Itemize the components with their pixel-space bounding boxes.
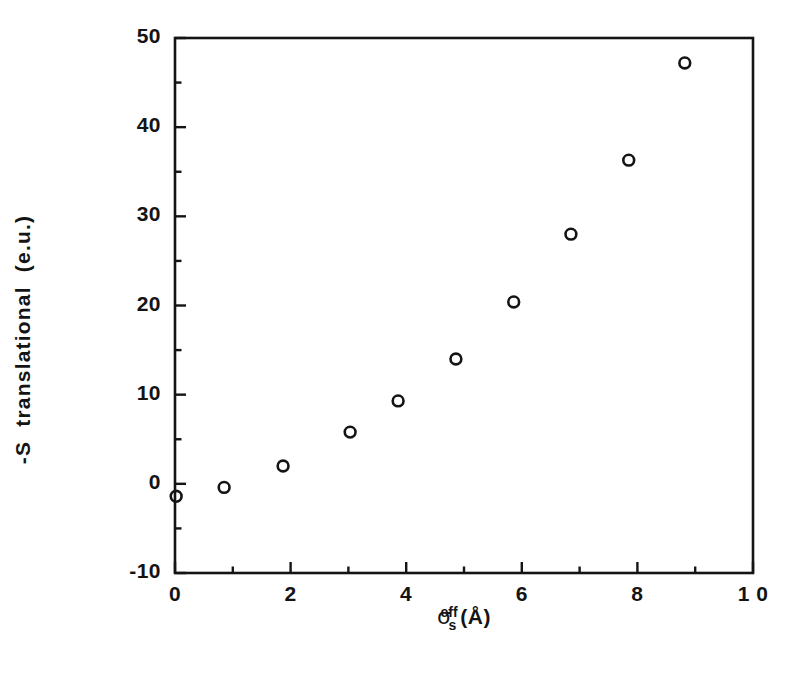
axis-frame bbox=[175, 38, 753, 573]
sigma-subscript: s bbox=[449, 617, 457, 633]
data-point bbox=[566, 229, 577, 240]
x-tick-label: 6 bbox=[487, 582, 557, 606]
x-tick-label: 8 bbox=[602, 582, 672, 606]
scatter-plot-figure: -S translational (e.u.) -1001020304050 0… bbox=[0, 0, 797, 679]
x-tick-label: 2 bbox=[256, 582, 326, 606]
axis-ticks bbox=[175, 38, 753, 573]
data-point bbox=[393, 396, 404, 407]
y-axis-label: -S translational (e.u.) bbox=[0, 0, 60, 679]
x-axis-label: σeffs(Å) bbox=[175, 604, 753, 633]
y-tick-label: -10 bbox=[101, 559, 161, 583]
y-tick-label: 20 bbox=[101, 292, 161, 316]
x-tick-label: 1 0 bbox=[718, 582, 788, 606]
data-point bbox=[508, 297, 519, 308]
data-point bbox=[679, 58, 690, 69]
y-tick-label: 10 bbox=[101, 381, 161, 405]
data-point bbox=[219, 482, 230, 493]
x-tick-label: 0 bbox=[140, 582, 210, 606]
data-point bbox=[278, 461, 289, 472]
data-point bbox=[623, 155, 634, 166]
data-point bbox=[345, 427, 356, 438]
x-axis-unit: (Å) bbox=[460, 605, 491, 628]
x-tick-label: 4 bbox=[371, 582, 441, 606]
data-point bbox=[451, 354, 462, 365]
y-tick-label: 30 bbox=[101, 202, 161, 226]
y-tick-label: 50 bbox=[101, 24, 161, 48]
plot-frame bbox=[175, 38, 753, 573]
y-tick-label: 0 bbox=[101, 470, 161, 494]
data-point-group bbox=[171, 58, 690, 502]
y-tick-label-group: -1001020304050 bbox=[95, 0, 161, 679]
y-tick-label: 40 bbox=[101, 113, 161, 137]
